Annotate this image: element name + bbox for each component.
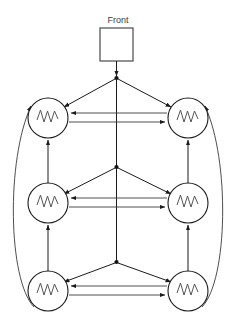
front-label: Front	[107, 15, 129, 25]
node-top-left[interactable]	[28, 98, 68, 138]
node-bottom-left-circle[interactable]	[28, 271, 68, 311]
branch-middle-right	[118, 168, 171, 194]
branch-bottom-right	[118, 263, 171, 282]
node-middle-right-circle[interactable]	[168, 183, 208, 223]
diagram-canvas: Front	[0, 0, 233, 326]
junction-top-dot	[114, 76, 118, 80]
node-top-right[interactable]	[168, 98, 208, 138]
node-bottom-right-circle[interactable]	[168, 271, 208, 311]
node-bottom-right[interactable]	[168, 271, 208, 311]
node-top-right-circle[interactable]	[168, 98, 208, 138]
branch-top-right	[118, 79, 171, 107]
node-middle-right[interactable]	[168, 183, 208, 223]
node-middle-left-circle[interactable]	[28, 183, 68, 223]
branch-middle-left	[64, 168, 115, 194]
front-box	[100, 28, 133, 61]
junction-middle-dot	[114, 165, 118, 169]
node-middle-left[interactable]	[28, 183, 68, 223]
node-top-left-circle[interactable]	[28, 98, 68, 138]
branch-bottom-left	[64, 263, 115, 282]
node-bottom-left[interactable]	[28, 271, 68, 311]
branch-top-left	[64, 79, 115, 107]
network-topology-diagram: Front	[0, 0, 233, 326]
junction-bottom-dot	[114, 260, 118, 264]
